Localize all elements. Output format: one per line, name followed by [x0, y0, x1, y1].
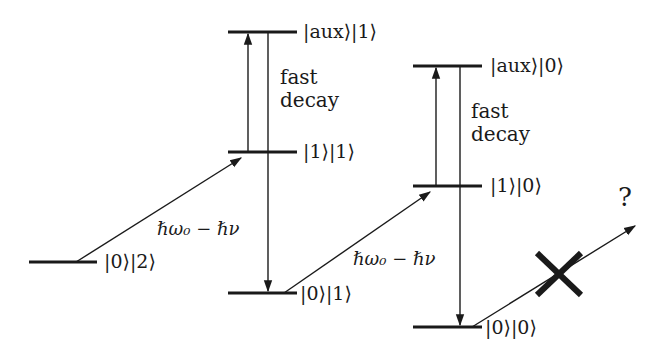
- label-fast-decay-1: fast decay: [280, 66, 339, 112]
- label-decay-2: decay: [471, 123, 530, 146]
- label-question-mark: ?: [618, 184, 632, 210]
- label-fast-1: fast: [280, 66, 339, 89]
- label-level-0-2: |0⟩|2⟩: [104, 252, 156, 271]
- arrow-photon-1: [76, 158, 241, 262]
- label-level-aux-0: |aux⟩|0⟩: [490, 56, 564, 75]
- label-level-aux-1: |aux⟩|1⟩: [303, 22, 377, 41]
- label-fast-2: fast: [471, 100, 530, 123]
- label-decay-1: decay: [280, 89, 339, 112]
- label-photon-energy-2: ℏω₀ − ℏν: [353, 250, 436, 268]
- energy-level-diagram: [0, 0, 665, 358]
- label-level-0-1: |0⟩|1⟩: [300, 284, 352, 303]
- label-level-1-1: |1⟩|1⟩: [303, 142, 355, 161]
- cross-icon: [537, 253, 581, 295]
- label-photon-energy-1: ℏω₀ − ℏν: [157, 220, 240, 238]
- label-level-1-0: |1⟩|0⟩: [490, 176, 542, 195]
- label-level-0-0: |0⟩|0⟩: [485, 318, 537, 337]
- arrow-photon-2: [284, 192, 430, 293]
- label-fast-decay-2: fast decay: [471, 100, 530, 146]
